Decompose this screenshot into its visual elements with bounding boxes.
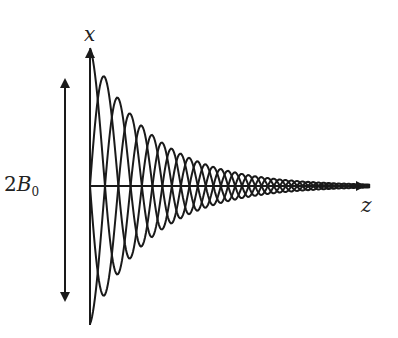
diagram-canvas: x z 2B0 (0, 0, 398, 338)
damped-curve-3 (90, 98, 370, 324)
z-axis-label: z (361, 193, 372, 217)
x-axis-label: x (84, 22, 95, 46)
damped-curve-1 (90, 48, 370, 274)
amplitude-label: 2B0 (4, 172, 39, 199)
damped-wave-figure (0, 0, 398, 338)
